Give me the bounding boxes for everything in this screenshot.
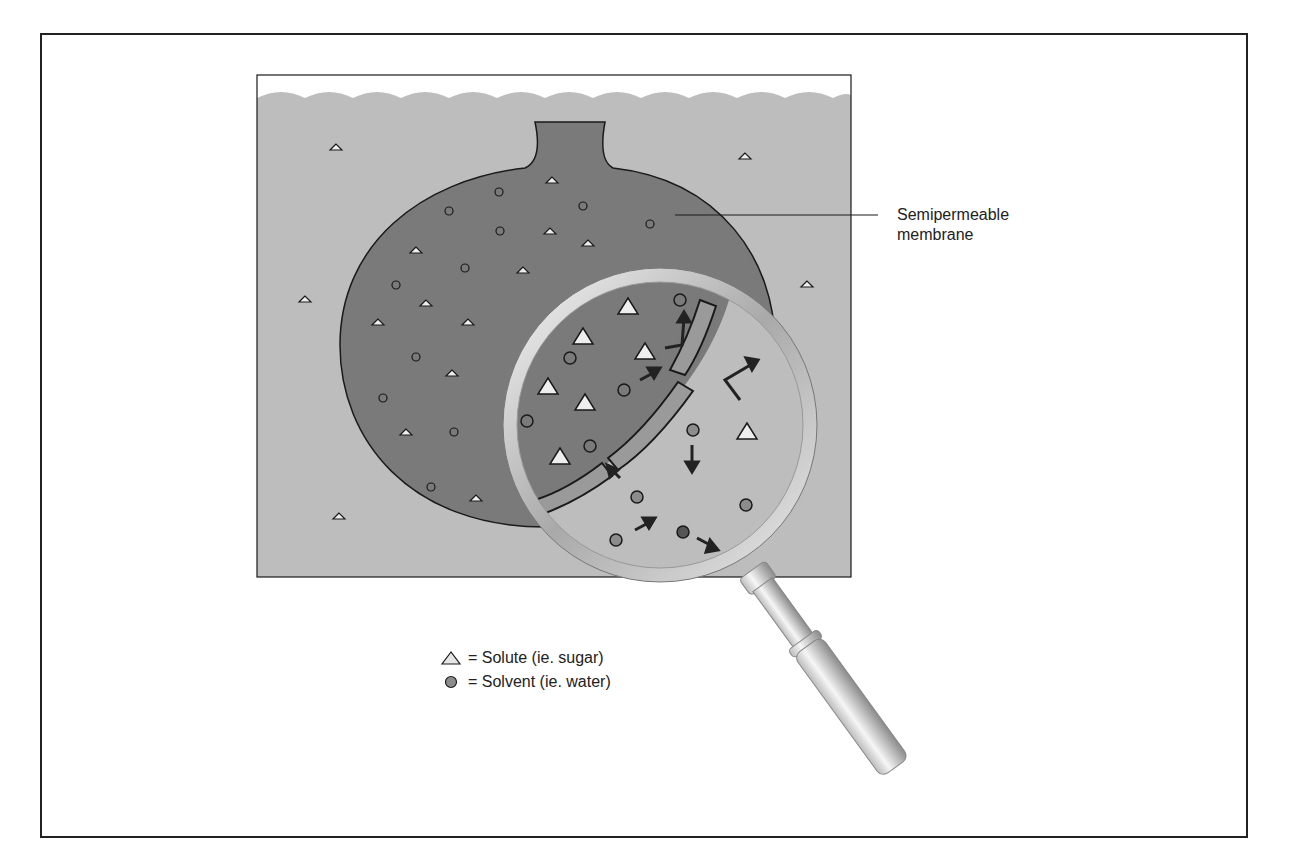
legend-item-solvent: = Solvent (ie. water) bbox=[440, 670, 611, 694]
membrane-label: Semipermeable membrane bbox=[897, 205, 1009, 245]
legend-item-solute: = Solute (ie. sugar) bbox=[440, 646, 611, 670]
triangle-icon bbox=[440, 650, 462, 666]
legend: = Solute (ie. sugar) = Solvent (ie. wate… bbox=[440, 646, 611, 694]
magnifier-handle bbox=[737, 559, 910, 778]
membrane-label-line1: Semipermeable bbox=[897, 205, 1009, 225]
legend-text-solvent: = Solvent (ie. water) bbox=[468, 673, 611, 691]
circle-icon bbox=[440, 674, 462, 690]
legend-text-solute: = Solute (ie. sugar) bbox=[468, 649, 604, 667]
membrane-label-line2: membrane bbox=[897, 225, 1009, 245]
osmosis-diagram bbox=[0, 0, 1289, 865]
